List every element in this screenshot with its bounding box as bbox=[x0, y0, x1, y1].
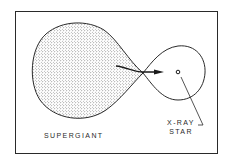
arrowhead-icon bbox=[154, 70, 164, 75]
xray-star-dot bbox=[176, 70, 180, 74]
xray-star-label-line1: X-RAY bbox=[158, 118, 204, 127]
binary-star-diagram bbox=[0, 0, 228, 164]
xray-star-label: X-RAY STAR bbox=[158, 118, 204, 136]
xray-star-label-line2: STAR bbox=[158, 127, 204, 136]
supergiant-lobe bbox=[32, 23, 143, 118]
xray-star-lobe bbox=[143, 46, 205, 100]
supergiant-label: SUPERGIANT bbox=[44, 131, 104, 140]
